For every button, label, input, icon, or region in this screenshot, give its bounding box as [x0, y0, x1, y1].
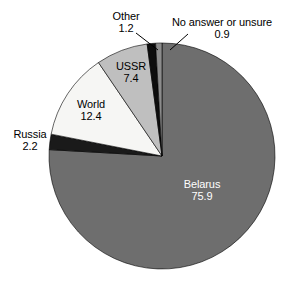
slice-label-other-name: Other	[95, 10, 157, 22]
slice-label-other-value: 1.2	[95, 22, 157, 34]
slice-label-world: World 12.4	[62, 98, 120, 123]
slice-label-no-answer-or-unsure-value: 0.9	[156, 28, 288, 40]
slice-label-no-answer-or-unsure: No answer or unsure 0.9	[156, 16, 288, 41]
pie-slice-group	[49, 43, 275, 269]
slice-label-russia-value: 2.2	[2, 140, 58, 152]
slice-label-russia-name: Russia	[2, 128, 58, 140]
slice-label-ussr-value: 7.4	[104, 72, 158, 84]
slice-label-belarus: Belarus 75.9	[172, 178, 232, 203]
slice-label-ussr-name: USSR	[104, 60, 158, 72]
slice-label-ussr: USSR 7.4	[104, 60, 158, 85]
slice-label-other: Other 1.2	[95, 10, 157, 35]
slice-label-belarus-name: Belarus	[172, 178, 232, 190]
slice-label-belarus-value: 75.9	[172, 190, 232, 202]
slice-label-world-value: 12.4	[62, 110, 120, 122]
pie-chart: Other 1.2 No answer or unsure 0.9 USSR 7…	[0, 0, 296, 283]
slice-label-russia: Russia 2.2	[2, 128, 58, 153]
slice-label-no-answer-or-unsure-name: No answer or unsure	[156, 16, 288, 28]
slice-label-world-name: World	[62, 98, 120, 110]
